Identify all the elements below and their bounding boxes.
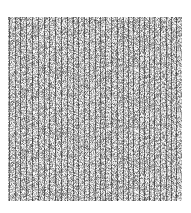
striped-noise-texture: [8, 17, 182, 201]
